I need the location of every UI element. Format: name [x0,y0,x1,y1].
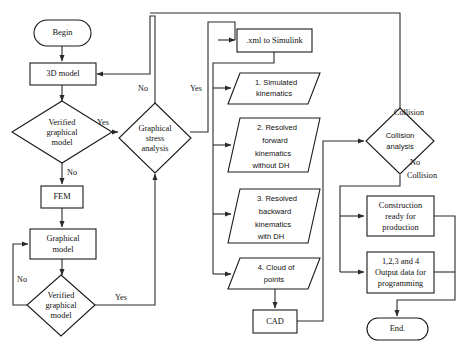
node-begin-label: Begin [52,28,73,37]
node-simulated-kinematics-line1: 1. Simulated [255,78,297,87]
node-simulated-kinematics[interactable]: 1. Simulated kinematics [228,73,320,104]
node-forward-kinematics-line2: forward [262,136,287,145]
node-backward-kinematics-line1: 3. Resolved [257,194,297,203]
node-begin[interactable]: Begin [34,20,91,46]
label-stress-yes: Yes [190,84,202,93]
node-verified2-line3: model [51,311,73,320]
node-resolved-forward-kinematics[interactable]: 2. Resolved forward kinematics without D… [228,118,320,172]
label-collision-no-1: No [410,158,420,167]
node-output-data[interactable]: 1,2,3 and 4 Output data for programming [367,252,434,293]
label-collision-yes: Collision [394,108,424,117]
label-verified1-no: No [67,168,77,177]
node-resolved-backward-kinematics[interactable]: 3. Resolved backward kinematics with DH [228,189,320,243]
node-forward-kinematics-line4: without DH [251,161,289,170]
node-verified1-line1: Verified [49,118,77,127]
node-cad[interactable]: CAD [253,310,297,333]
node-verified1-line2: graphical [46,128,78,137]
node-simulated-kinematics-line2: kinematics [256,89,292,98]
label-collision-no-2: Collision [407,171,437,180]
node-collision-line2: analysis [386,142,414,151]
node-construction-line1: Construction [379,201,423,210]
label-verified2-yes: Yes [115,293,127,302]
node-forward-kinematics-line1: 2. Resolved [257,123,297,132]
node-backward-kinematics-line3: kinematics [255,220,291,229]
flowchart-svg: Begin 3D model Verified graphical model … [0,0,467,347]
node-output-line3: programming [378,279,424,288]
node-construction-line3: production [382,223,419,232]
node-output-line2: Output data for [375,268,426,277]
node-fem[interactable]: FEM [41,186,83,208]
node-cloud-of-points[interactable]: 4. Cloud of points [228,258,320,289]
node-stress-line1: Graphical [138,124,172,133]
node-3d-model-label: 3D model [46,69,80,78]
node-cloud-of-points-line2: points [264,275,284,284]
node-cad-label: CAD [266,317,284,326]
node-xml-to-simulink[interactable]: .xml to Simulink [237,29,312,52]
node-cloud-of-points-line1: 4. Cloud of [258,263,296,272]
node-verified-graphical-model-2[interactable]: Verified graphical model [27,275,95,336]
label-verified1-yes: Yes [97,118,109,127]
edge-verified2-yes-to-stress [95,174,155,305]
node-collision-analysis[interactable]: Collision analysis [366,108,434,174]
node-forward-kinematics-line3: kinematics [255,149,291,158]
node-backward-kinematics-line4: with DH [257,232,285,241]
node-construction-ready[interactable]: Construction ready for production [367,196,434,236]
node-graphical-model[interactable]: Graphical model [30,229,96,259]
node-collision-line1: Collision [386,131,415,140]
node-end[interactable]: End. [367,318,428,340]
node-verified1-line3: model [52,138,74,147]
node-stress-line3: analysis [142,144,169,153]
node-xml-label: .xml to Simulink [246,36,303,45]
flowchart-canvas: Begin 3D model Verified graphical model … [0,0,467,347]
node-output-line1: 1,2,3 and 4 [382,257,420,266]
node-graphical-model-line1: Graphical [46,234,80,243]
node-end-label: End. [390,324,406,333]
node-graphical-stress-analysis[interactable]: Graphical stress analysis [119,103,191,173]
node-verified-graphical-model-1[interactable]: Verified graphical model [12,101,112,163]
node-verified2-line2: graphical [45,301,77,310]
node-construction-line2: ready for [385,212,416,221]
node-graphical-model-line2: model [53,245,75,254]
label-verified2-no: No [17,275,27,284]
node-fem-label: FEM [53,192,71,201]
node-backward-kinematics-line2: backward [259,207,292,216]
node-3d-model[interactable]: 3D model [30,63,96,85]
node-verified2-line1: Verified [48,291,76,300]
node-stress-line2: stress [146,134,165,143]
label-stress-no: No [138,84,148,93]
